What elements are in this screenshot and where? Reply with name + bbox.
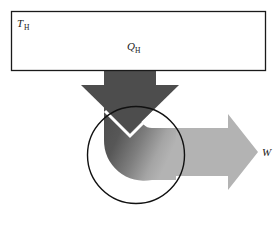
heat-arrow-label-sub: H [135,46,141,55]
hot-thermal-reservoir [12,12,266,71]
reservoir-label-sub: H [24,23,30,32]
label-work-arrow: W [262,146,272,158]
thermodynamics-diagram: T H Q H W [0,0,280,232]
reservoir-label-main: T [17,17,24,29]
diagram-canvas: T H Q H W [0,0,280,232]
heat-arrow-label-main: Q [127,40,135,52]
work-arrow-label-main: W [262,146,272,158]
reservoir-box [12,12,266,71]
heat-arrow-head-base [104,85,156,105]
